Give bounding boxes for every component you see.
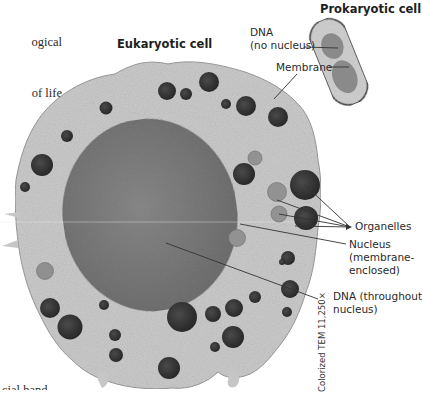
eukaryotic-title: Eukaryotic cell [117,37,212,51]
membrane-label: Membrane [276,61,332,74]
membrane-protrusion [97,370,108,388]
organelles-arrowhead [346,224,352,230]
micrograph-caption: Colorized TEM 11,250× [317,292,327,392]
eukaryotic-cell [0,62,412,389]
prokaryotic-title: Prokaryotic cell [320,2,421,16]
membrane-protrusion [2,240,18,248]
membrane-protrusion [4,212,20,218]
eukaryote-dna-label: DNA (throughout nucleus) [333,290,422,316]
organelles-label: Organelles [355,220,411,233]
nucleus-label: Nucleus (membrane- enclosed) [349,238,414,277]
prokaryote-dna-label: DNA (no nucleus) [250,26,315,52]
